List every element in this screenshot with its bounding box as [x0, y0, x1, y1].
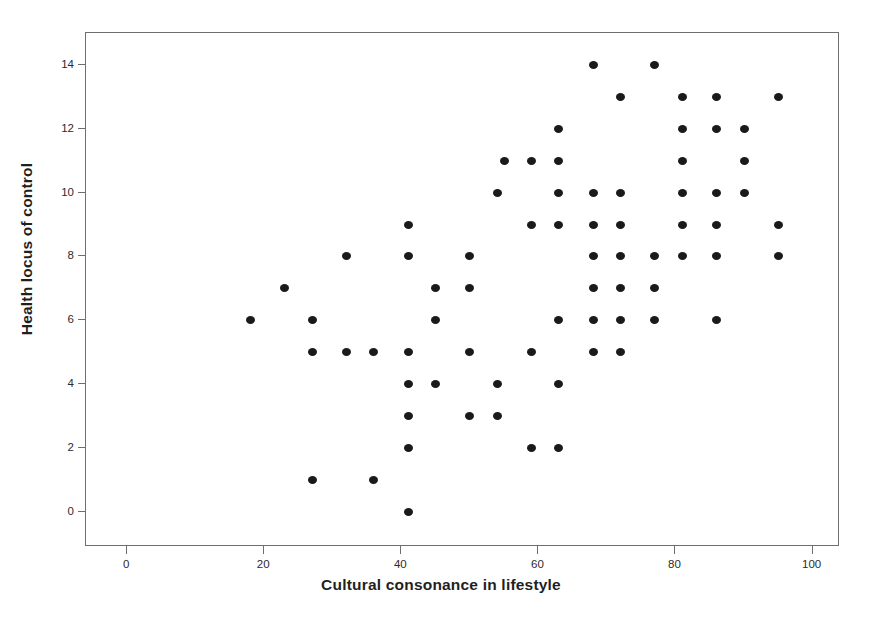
- data-point: [774, 252, 783, 260]
- data-point: [650, 252, 659, 260]
- data-point: [678, 189, 687, 197]
- data-point: [404, 508, 413, 516]
- y-axis-tick: [78, 383, 85, 384]
- data-point: [308, 316, 317, 324]
- data-point: [589, 252, 598, 260]
- data-point: [554, 380, 563, 388]
- x-axis-tick: [812, 546, 813, 554]
- data-point: [678, 252, 687, 260]
- data-point: [650, 316, 659, 324]
- y-axis-tick: [78, 319, 85, 320]
- y-axis-tick: [78, 255, 85, 256]
- data-point: [554, 444, 563, 452]
- data-point: [616, 189, 625, 197]
- data-point: [527, 348, 536, 356]
- x-axis-tick: [126, 546, 127, 554]
- data-point: [369, 348, 378, 356]
- data-point: [554, 189, 563, 197]
- data-point: [493, 380, 502, 388]
- x-axis-tick-label: 0: [123, 558, 129, 570]
- data-point: [740, 189, 749, 197]
- data-point: [678, 157, 687, 165]
- data-point: [678, 93, 687, 101]
- data-point: [774, 93, 783, 101]
- y-axis-tick-label: 4: [68, 377, 74, 389]
- data-point: [369, 476, 378, 484]
- data-point: [616, 316, 625, 324]
- data-point: [616, 221, 625, 229]
- data-point: [527, 444, 536, 452]
- data-point: [404, 221, 413, 229]
- scatter-plot-figure: Health locus of control 0246810121402040…: [0, 0, 882, 618]
- data-point: [589, 189, 598, 197]
- y-axis-tick: [78, 64, 85, 65]
- y-axis-tick: [78, 192, 85, 193]
- data-point: [589, 61, 598, 69]
- y-axis-tick-label: 6: [68, 313, 74, 325]
- data-point: [616, 348, 625, 356]
- data-point: [527, 221, 536, 229]
- data-point: [740, 157, 749, 165]
- data-point: [404, 444, 413, 452]
- x-axis-tick-label: 60: [531, 558, 544, 570]
- data-point: [589, 316, 598, 324]
- data-point: [616, 284, 625, 292]
- data-point: [308, 476, 317, 484]
- data-point: [678, 221, 687, 229]
- data-point: [616, 93, 625, 101]
- y-axis-tick-label: 10: [61, 186, 74, 198]
- x-axis-tick-label: 80: [668, 558, 681, 570]
- x-axis-tick: [674, 546, 675, 554]
- data-point: [650, 61, 659, 69]
- data-point: [493, 412, 502, 420]
- data-point: [431, 380, 440, 388]
- x-axis-tick: [263, 546, 264, 554]
- data-point: [342, 348, 351, 356]
- data-point: [527, 157, 536, 165]
- x-axis-tick-label: 20: [257, 558, 270, 570]
- y-axis-tick-label: 2: [68, 441, 74, 453]
- data-point: [554, 125, 563, 133]
- data-point: [712, 125, 721, 133]
- data-point: [342, 252, 351, 260]
- data-point: [712, 93, 721, 101]
- data-point: [404, 348, 413, 356]
- data-point: [589, 348, 598, 356]
- y-axis-tick-label: 0: [68, 505, 74, 517]
- data-point: [465, 348, 474, 356]
- data-point: [500, 157, 509, 165]
- data-point: [554, 157, 563, 165]
- data-point: [774, 221, 783, 229]
- x-axis-tick: [537, 546, 538, 554]
- data-point: [616, 252, 625, 260]
- y-axis-tick-label: 12: [61, 122, 74, 134]
- y-axis-tick: [78, 447, 85, 448]
- data-point: [740, 125, 749, 133]
- data-point: [554, 316, 563, 324]
- x-axis-tick-label: 40: [394, 558, 407, 570]
- data-point: [712, 189, 721, 197]
- data-point: [431, 284, 440, 292]
- data-point: [404, 412, 413, 420]
- y-axis-tick: [78, 128, 85, 129]
- data-point: [493, 189, 502, 197]
- plot-area: [85, 32, 839, 546]
- data-point: [246, 316, 255, 324]
- data-point: [465, 252, 474, 260]
- data-point: [465, 284, 474, 292]
- data-point: [465, 412, 474, 420]
- y-axis-title: Health locus of control: [18, 84, 36, 414]
- x-axis-tick-label: 100: [802, 558, 821, 570]
- data-point: [678, 125, 687, 133]
- data-point: [554, 221, 563, 229]
- y-axis-tick-label: 8: [68, 249, 74, 261]
- data-point: [589, 284, 598, 292]
- data-point: [280, 284, 289, 292]
- data-points-layer: [86, 33, 838, 545]
- x-axis-tick: [400, 546, 401, 554]
- data-point: [431, 316, 440, 324]
- y-axis-tick: [78, 511, 85, 512]
- data-point: [712, 316, 721, 324]
- data-point: [650, 284, 659, 292]
- x-axis-title: Cultural consonance in lifestyle: [0, 576, 882, 594]
